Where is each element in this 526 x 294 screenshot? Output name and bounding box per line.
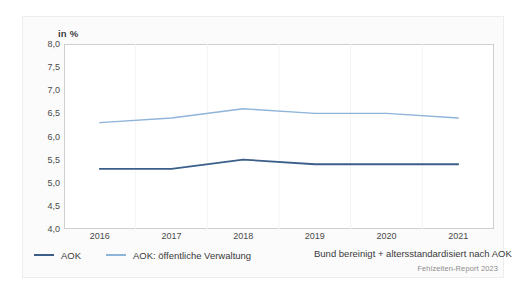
y-tick-label: 6,5 [30, 108, 60, 118]
x-tick-label: 2019 [305, 231, 325, 241]
x-tick-label: 2017 [161, 231, 181, 241]
y-tick-label: 6,0 [30, 132, 60, 142]
y-tick-label: 4,5 [30, 201, 60, 211]
x-tick-label: 2020 [376, 231, 396, 241]
y-tick-label: 8,0 [30, 39, 60, 49]
y-axis-unit-label: in % [58, 28, 78, 39]
legend-note: Bund bereinigt + altersstandardisiert na… [314, 248, 512, 259]
chart-figure: in % 4,04,55,05,56,06,57,07,58,0 2016201… [0, 0, 526, 294]
y-axis-ticks: 4,04,55,05,56,06,57,07,58,0 [28, 44, 60, 229]
legend-item-aok: AOK [34, 248, 81, 262]
x-tick-label: 2016 [90, 231, 110, 241]
legend-item-aok-oeffentliche-verwaltung: AOK: öffentliche Verwaltung [106, 248, 251, 262]
x-axis-ticks: 201620172018201920202021 [64, 231, 494, 247]
legend-label-oeffentliche-verwaltung: AOK: öffentliche Verwaltung [133, 250, 251, 261]
legend-swatch-icon-aok [34, 254, 54, 256]
legend-label-aok: AOK [61, 250, 81, 261]
y-tick-label: 7,5 [30, 62, 60, 72]
legend-swatch-icon-oeffentliche-verwaltung [106, 254, 126, 256]
source-note: Fehlzeiten-Report 2023 [417, 264, 498, 273]
y-tick-label: 7,0 [30, 85, 60, 95]
plot-lines [64, 44, 494, 229]
y-tick-label: 5,0 [30, 178, 60, 188]
chart-legend: AOK AOK: öffentliche Verwaltung Bund ber… [34, 248, 504, 264]
y-tick-label: 4,0 [30, 224, 60, 234]
x-tick-label: 2021 [448, 231, 468, 241]
x-tick-label: 2018 [233, 231, 253, 241]
y-tick-label: 5,5 [30, 155, 60, 165]
